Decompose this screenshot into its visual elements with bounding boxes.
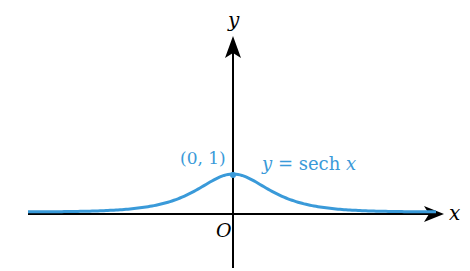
x-axis-label: x <box>449 203 460 223</box>
curve-equation-y: y <box>262 153 272 174</box>
origin-label: O <box>216 221 232 240</box>
y-axis-label: y <box>228 10 239 30</box>
curve-equation-body: = sech <box>272 153 346 174</box>
chart-svg <box>0 0 470 271</box>
curve-equation-label: y = sech x <box>262 155 356 173</box>
peak-point <box>230 172 236 178</box>
peak-point-label: (0, 1) <box>180 150 226 167</box>
chart-canvas: y x O (0, 1) y = sech x <box>0 0 470 271</box>
curve-equation-x: x <box>346 153 356 174</box>
